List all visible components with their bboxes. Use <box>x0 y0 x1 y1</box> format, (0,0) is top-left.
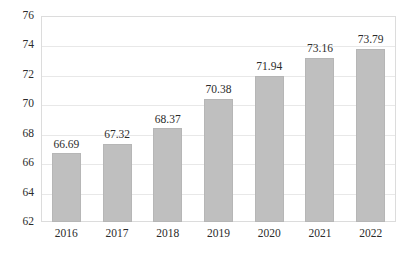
plot-area <box>41 16 396 222</box>
x-axis-ticks: 2016 2017 2018 2019 2020 2021 2022 <box>41 228 396 240</box>
x-tick-label: 2020 <box>244 228 295 240</box>
gridline <box>42 164 395 165</box>
y-tick-label: 72 <box>8 69 34 81</box>
y-tick-label: 62 <box>8 216 34 228</box>
bar-chart: 76 74 72 70 68 66 64 62 66.69 67.32 68.3… <box>0 0 416 265</box>
y-tick-label: 70 <box>8 99 34 111</box>
x-tick-label: 2018 <box>142 228 193 240</box>
y-tick-label: 68 <box>8 128 34 140</box>
y-tick-label: 64 <box>8 187 34 199</box>
gridline <box>42 194 395 195</box>
y-tick-label: 66 <box>8 157 34 169</box>
x-tick-label: 2017 <box>92 228 143 240</box>
gridline <box>42 76 395 77</box>
gridline <box>42 105 395 106</box>
gridline <box>42 135 395 136</box>
x-tick-label: 2016 <box>41 228 92 240</box>
x-tick-label: 2022 <box>345 228 396 240</box>
x-tick-label: 2021 <box>295 228 346 240</box>
y-tick-label: 74 <box>8 40 34 52</box>
x-tick-label: 2019 <box>193 228 244 240</box>
y-tick-label: 76 <box>8 10 34 22</box>
gridline <box>42 46 395 47</box>
